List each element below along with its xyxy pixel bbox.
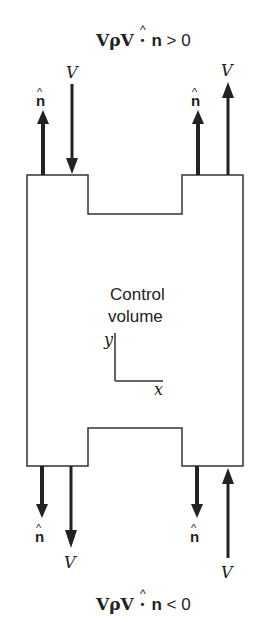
top-right-velocity-label: V <box>221 61 234 80</box>
caret: ^ <box>36 522 42 534</box>
bottom-left-velocity-label: V <box>64 553 77 572</box>
top-right-velocity-arrow <box>222 82 234 175</box>
control-volume-label-line2: volume <box>108 307 163 326</box>
x-axis-label: x <box>154 380 163 399</box>
bottom-right-normal-arrow <box>191 466 203 518</box>
y-axis-label: y <box>103 330 114 349</box>
top-left-normal-arrow <box>37 110 49 175</box>
caret: ^ <box>37 86 43 98</box>
control-volume-label-line1: Control <box>110 285 165 304</box>
top-left-velocity-arrow <box>66 84 78 174</box>
bottom-left-normal-arrow <box>36 466 48 518</box>
bottom-right-velocity-label: V <box>221 563 234 582</box>
top-right-normal-arrow <box>192 110 204 175</box>
bottom-right-velocity-arrow <box>222 468 234 558</box>
nhat-caret: ^ <box>140 23 146 37</box>
nhat-caret: ^ <box>140 587 146 601</box>
top-left-velocity-label: V <box>66 63 79 82</box>
caret: ^ <box>191 522 197 534</box>
caret: ^ <box>192 86 198 98</box>
coordinate-axes <box>115 333 163 381</box>
bottom-left-velocity-arrow <box>65 466 77 548</box>
control-volume-diagram: VρV · n > 0 ^ n ^ V n ^ V Control volume… <box>0 0 258 625</box>
